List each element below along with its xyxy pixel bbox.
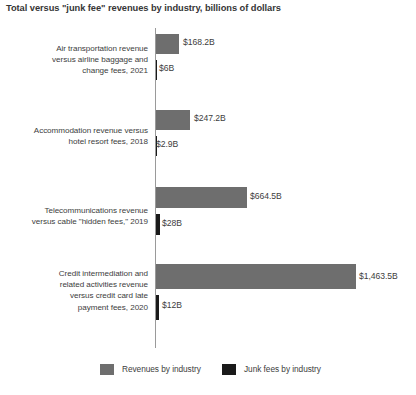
bar-group: Telecommunications revenue versus cable … <box>0 178 416 246</box>
bar-total-revenue[interactable] <box>156 34 179 54</box>
bar-chart: Total versus "junk fee" revenues by indu… <box>0 0 416 395</box>
bar-value-fee: $12B <box>162 300 182 310</box>
category-label-line: hotel resort fees, 2018 <box>69 137 148 146</box>
category-label-line: payment fees, 2020 <box>78 303 148 312</box>
category-label-line: versus airline baggage and <box>52 55 148 64</box>
category-label-line: versus cable "hidden fees," 2019 <box>32 217 148 226</box>
category-label: Credit intermediation and related activi… <box>8 268 148 313</box>
legend-label-revenues: Revenues by industry <box>122 364 201 374</box>
legend-item-junk-fees[interactable]: Junk fees by industry <box>222 362 321 376</box>
category-label-line: related activities revenue <box>60 280 148 289</box>
bar-junk-fee[interactable] <box>156 60 157 80</box>
bar-value-fee: $6B <box>159 63 174 73</box>
bar-track-total <box>156 110 190 130</box>
bar-total-revenue[interactable] <box>156 187 247 208</box>
category-label-line: Credit intermediation and <box>59 269 148 278</box>
bar-value-total: $1,463.5B <box>359 271 398 281</box>
chart-legend: Revenues by industry Junk fees by indust… <box>0 362 416 378</box>
legend-swatch-revenues <box>100 364 114 375</box>
bar-track-fee <box>156 214 160 235</box>
legend-item-revenues[interactable]: Revenues by industry <box>100 362 201 376</box>
bar-value-total: $664.5B <box>250 191 282 201</box>
bar-value-fee: $2.9B <box>156 139 178 149</box>
category-label-line: Accommodation revenue versus <box>34 126 148 135</box>
bar-value-total: $247.2B <box>194 113 226 123</box>
bar-group: Air transportation revenue versus airlin… <box>0 26 416 94</box>
category-label: Air transportation revenue versus airlin… <box>8 43 148 77</box>
bar-total-revenue[interactable] <box>156 110 190 130</box>
chart-title: Total versus "junk fee" revenues by indu… <box>6 3 281 13</box>
bar-total-revenue[interactable] <box>156 264 356 289</box>
bar-value-total: $168.2B <box>183 37 215 47</box>
category-label: Telecommunications revenue versus cable … <box>8 205 148 227</box>
category-label-line: Air transportation revenue <box>56 44 148 53</box>
plot-area: Air transportation revenue versus airlin… <box>0 26 416 348</box>
legend-label-junk-fees: Junk fees by industry <box>244 364 321 374</box>
bar-junk-fee[interactable] <box>156 214 160 235</box>
legend-swatch-junk-fees <box>222 364 236 375</box>
category-label-line: versus credit card late <box>70 291 148 300</box>
bar-track-total <box>156 187 247 208</box>
bar-group: Credit intermediation and related activi… <box>0 256 416 331</box>
bar-value-fee: $28B <box>162 218 182 228</box>
bar-group: Accommodation revenue versus hotel resor… <box>0 101 416 169</box>
bar-track-fee <box>156 295 159 320</box>
bar-track-total <box>156 264 356 289</box>
category-label: Accommodation revenue versus hotel resor… <box>8 125 148 147</box>
bar-track-total <box>156 34 179 54</box>
category-label-line: change fees, 2021 <box>82 66 148 75</box>
bar-track-fee <box>156 60 157 80</box>
bar-junk-fee[interactable] <box>156 295 159 320</box>
category-label-line: Telecommunications revenue <box>44 206 148 215</box>
